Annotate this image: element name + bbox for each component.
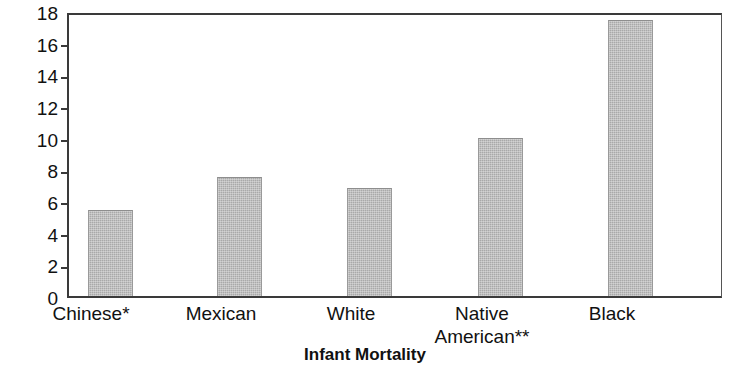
tick-mark-4 — [61, 235, 69, 237]
tick-mark-8 — [61, 172, 69, 174]
x-tick-label-mexican-line1: Mexican — [186, 303, 257, 324]
bar-black — [608, 20, 653, 296]
y-tick-label-8: 8 — [30, 162, 58, 181]
x-axis-title: Infant Mortality — [0, 345, 730, 365]
bar-chinese — [88, 210, 133, 296]
y-tick-label-6: 6 — [30, 194, 58, 213]
y-tick-label-12: 12 — [30, 99, 58, 118]
x-tick-label-black-line1: Black — [589, 303, 635, 324]
tick-mark-10 — [61, 140, 69, 142]
y-tick-label-14: 14 — [30, 67, 58, 86]
y-tick-label-10: 10 — [30, 131, 58, 150]
bar-mexican — [217, 177, 262, 296]
tick-mark-14 — [61, 77, 69, 79]
x-tick-label-chinese-line1: Chinese* — [52, 303, 129, 324]
x-tick-label-white-line1: White — [327, 303, 376, 324]
tick-mark-6 — [61, 203, 69, 205]
x-tick-label-native-american-line1: Native — [455, 303, 509, 324]
plot-area — [67, 13, 722, 298]
tick-mark-2 — [61, 267, 69, 269]
y-tick-label-4: 4 — [30, 226, 58, 245]
tick-mark-12 — [61, 108, 69, 110]
bar-chart-figure: Rate per 1,000 18 16 14 12 10 8 6 4 2 0 … — [0, 0, 730, 372]
y-tick-label-16: 16 — [30, 36, 58, 55]
tick-mark-16 — [61, 45, 69, 47]
x-tick-label-black: Black — [527, 302, 697, 325]
y-tick-label-2: 2 — [30, 257, 58, 276]
y-tick-label-18: 18 — [30, 4, 58, 23]
bar-white — [347, 188, 392, 296]
bar-native-american — [478, 138, 523, 296]
